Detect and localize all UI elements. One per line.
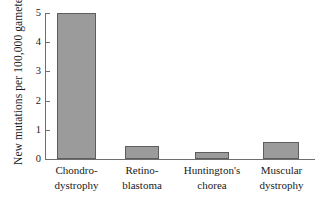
y-tick-4: 4: [45, 42, 50, 43]
category-label-chondrodystrophy: Chondro- dystrophy: [46, 163, 107, 192]
bar-huntingtons-chorea: [195, 152, 229, 159]
y-tick-label-1: 1: [36, 123, 41, 136]
y-axis-line: [45, 13, 46, 160]
y-tick-label-0: 0: [36, 152, 41, 165]
y-tick-label-3: 3: [36, 64, 41, 77]
y-tick-label-5: 5: [36, 6, 41, 19]
y-tick-label-2: 2: [36, 94, 41, 107]
y-tick-1: 1: [45, 130, 50, 131]
category-label-retinoblastoma: Retino- blastoma: [113, 163, 171, 192]
y-tick-2: 2: [45, 101, 50, 102]
bar-chart: New mutations per 100,000 gametes 0 1 2 …: [0, 0, 323, 207]
y-axis-title: New mutations per 100,000 gametes: [9, 5, 27, 165]
y-tick-label-4: 4: [36, 35, 41, 48]
category-label-huntingtons-chorea: Huntington's chorea: [180, 163, 244, 192]
x-axis-line: [45, 159, 315, 160]
category-label-muscular-dystrophy: Muscular dystrophy: [250, 163, 313, 192]
y-tick-5: 5: [45, 13, 50, 14]
bar-muscular-dystrophy: [263, 142, 299, 159]
bar-retinoblastoma: [125, 146, 159, 159]
y-tick-3: 3: [45, 71, 50, 72]
bar-chondrodystrophy: [57, 13, 96, 159]
y-tick-0: 0: [45, 159, 50, 160]
